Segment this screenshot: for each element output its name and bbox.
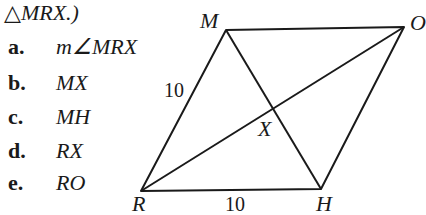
vertex-label-o: O	[410, 12, 426, 34]
vertex-label-h: H	[316, 193, 332, 215]
side-label-rh: 10	[225, 194, 245, 214]
vertex-label-r: R	[132, 193, 145, 215]
vertex-label-x: X	[258, 118, 271, 140]
diagonal-ro	[141, 27, 404, 191]
side-label-mr: 10	[164, 80, 184, 100]
vertex-label-m: M	[200, 10, 218, 32]
